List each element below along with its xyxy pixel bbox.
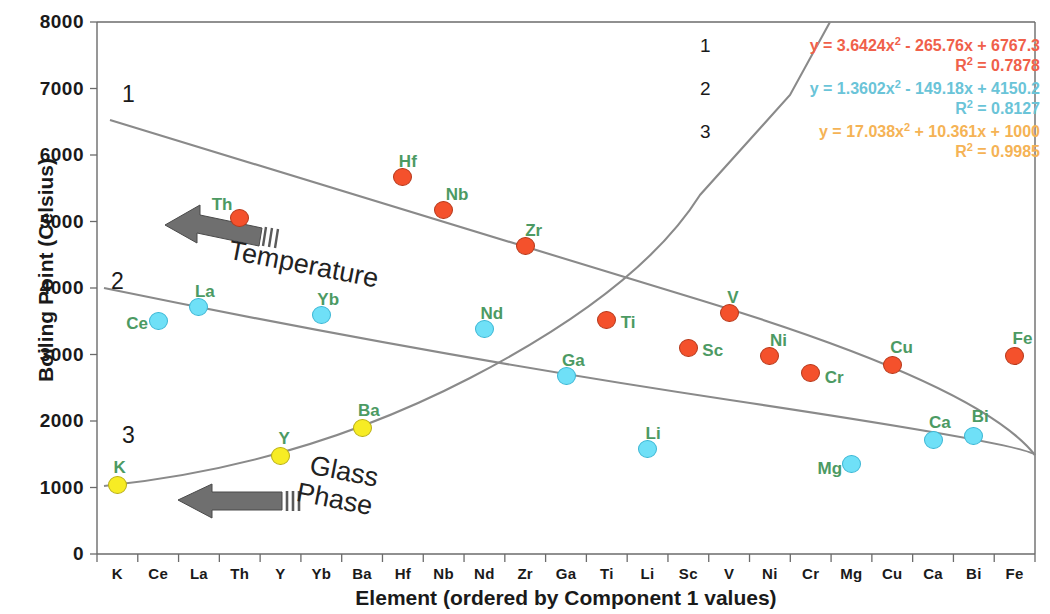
boiling-point-scatter-chart: 800070006000500040003000200010000 KCeLaT… <box>0 0 1050 614</box>
data-point-label-ca: Ca <box>929 414 951 431</box>
data-point-label-sc: Sc <box>702 342 723 359</box>
x-tick-ca: Ca <box>911 566 955 581</box>
trendline-number-2: 2 <box>111 270 124 293</box>
r-squared-text-2: R2 = 0.8127 <box>719 99 1040 119</box>
equation-body-2: y = 1.3602x2 - 149.18x + 4150.2R2 = 0.81… <box>719 79 1040 119</box>
x-tick-y: Y <box>259 566 303 581</box>
data-point-label-la: La <box>195 283 215 300</box>
y-axis-title: Boiling Point (Celsius) <box>34 120 58 420</box>
r-squared-value-2: = 0.8127 <box>973 100 1040 117</box>
data-point-ca[interactable] <box>924 431 943 449</box>
x-tick-bi: Bi <box>952 566 996 581</box>
x-axis-title: Element (ordered by Component 1 values) <box>97 586 1035 610</box>
r-squared-value-1: = 0.7878 <box>973 57 1040 74</box>
data-point-label-k: K <box>113 459 125 476</box>
data-point-label-ga: Ga <box>562 352 585 369</box>
equation-body-1: y = 3.6424x2 - 265.76x + 6767.3R2 = 0.78… <box>719 36 1040 76</box>
trendline-number-1: 1 <box>122 83 135 106</box>
data-point-label-bi: Bi <box>972 408 989 425</box>
data-point-label-y: Y <box>279 430 290 447</box>
y-tick-8000: 8000 <box>12 12 84 31</box>
r-squared-symbol-1: R <box>955 57 967 74</box>
x-tick-v: V <box>707 566 751 581</box>
x-tick-fe: Fe <box>993 566 1037 581</box>
data-point-label-cr: Cr <box>825 369 844 386</box>
data-point-label-ba: Ba <box>358 402 380 419</box>
equation-body-3: y = 17.038x2 + 10.361x + 1000R2 = 0.9985 <box>719 122 1040 162</box>
x-tick-ti: Ti <box>585 566 629 581</box>
x-tick-cr: Cr <box>789 566 833 581</box>
r-squared-text-1: R2 = 0.7878 <box>719 56 1040 76</box>
x-tick-hf: Hf <box>381 566 425 581</box>
x-tick-cu: Cu <box>870 566 914 581</box>
x-tick-ga: Ga <box>544 566 588 581</box>
x-tick-nb: Nb <box>422 566 466 581</box>
equation-number-1: 1 <box>700 36 719 56</box>
x-tick-th: Th <box>218 566 262 581</box>
x-tick-ba: Ba <box>340 566 384 581</box>
data-point-label-zr: Zr <box>525 222 542 239</box>
data-point-sc[interactable] <box>679 339 698 357</box>
data-point-ga[interactable] <box>557 367 576 385</box>
x-tick-mg: Mg <box>829 566 873 581</box>
r-squared-symbol-2: R <box>955 100 967 117</box>
data-point-label-th: Th <box>212 196 233 213</box>
equation-text-3: y = 17.038x2 + 10.361x + 1000 <box>719 122 1040 142</box>
y-axis-ticks <box>90 22 97 554</box>
equation-text-2: y = 1.3602x2 - 149.18x + 4150.2 <box>719 79 1040 99</box>
data-point-k[interactable] <box>108 476 127 494</box>
data-point-label-ni: Ni <box>770 332 787 349</box>
x-tick-li: Li <box>626 566 670 581</box>
equation-number-3: 3 <box>700 122 719 142</box>
equation-row-3: 3y = 17.038x2 + 10.361x + 1000R2 = 0.998… <box>700 122 1040 162</box>
x-tick-nd: Nd <box>462 566 506 581</box>
equation-legend: 1y = 3.6424x2 - 265.76x + 6767.3R2 = 0.7… <box>700 36 1040 165</box>
equation-row-1: 1y = 3.6424x2 - 265.76x + 6767.3R2 = 0.7… <box>700 36 1040 76</box>
data-point-label-v: V <box>727 289 738 306</box>
data-point-label-fe: Fe <box>1013 330 1033 347</box>
y-tick-1000: 1000 <box>12 478 84 497</box>
r-squared-symbol-3: R <box>955 143 967 160</box>
y-tick-0: 0 <box>12 544 84 563</box>
data-point-label-nb: Nb <box>446 186 469 203</box>
equation-rhs-2: - 149.18x + 4150.2 <box>901 80 1040 97</box>
x-axis-ticks <box>97 554 1035 562</box>
x-tick-zr: Zr <box>503 566 547 581</box>
data-point-label-ti: Ti <box>621 314 636 331</box>
x-tick-ce: Ce <box>136 566 180 581</box>
glass-arrow <box>178 484 299 518</box>
data-point-bi[interactable] <box>964 427 983 445</box>
r-squared-value-3: = 0.9985 <box>973 143 1040 160</box>
x-tick-ni: Ni <box>748 566 792 581</box>
equation-number-2: 2 <box>700 79 719 99</box>
equation-lhs-2: y = 1.3602x <box>810 80 895 97</box>
data-point-label-nd: Nd <box>480 305 503 322</box>
data-point-cu[interactable] <box>883 356 902 374</box>
data-point-label-mg: Mg <box>817 460 842 477</box>
data-point-label-hf: Hf <box>399 153 417 170</box>
equation-text-1: y = 3.6424x2 - 265.76x + 6767.3 <box>719 36 1040 56</box>
data-point-label-cu: Cu <box>890 339 913 356</box>
equation-lhs-3: y = 17.038x <box>819 123 904 140</box>
x-tick-la: La <box>177 566 221 581</box>
data-point-label-ce: Ce <box>126 315 148 332</box>
equation-rhs-1: - 265.76x + 6767.3 <box>901 37 1040 54</box>
data-point-fe[interactable] <box>1005 347 1024 365</box>
x-tick-sc: Sc <box>666 566 710 581</box>
data-point-ba[interactable] <box>353 419 372 437</box>
equation-lhs-1: y = 3.6424x <box>810 37 895 54</box>
data-point-ce[interactable] <box>149 312 168 330</box>
r-squared-text-3: R2 = 0.9985 <box>719 142 1040 162</box>
trendline-number-3: 3 <box>122 424 135 447</box>
data-point-label-yb: Yb <box>317 291 339 308</box>
x-tick-yb: Yb <box>299 566 343 581</box>
equation-rhs-3: + 10.361x + 1000 <box>910 123 1040 140</box>
trendline-1 <box>110 120 1035 455</box>
x-tick-k: K <box>95 566 139 581</box>
equation-row-2: 2y = 1.3602x2 - 149.18x + 4150.2R2 = 0.8… <box>700 79 1040 119</box>
data-point-label-li: Li <box>646 425 661 442</box>
y-tick-7000: 7000 <box>12 79 84 98</box>
